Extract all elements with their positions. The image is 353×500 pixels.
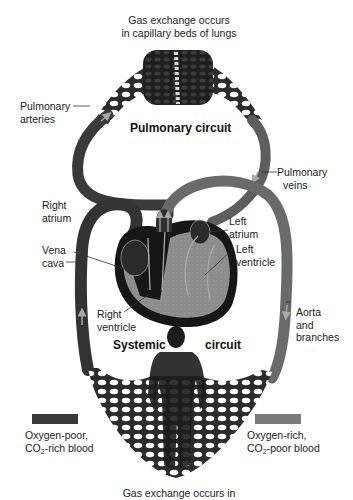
label-aorta-and-branches: Aorta and branches (296, 306, 339, 344)
label-pulmonary-veins: Pulmonary veins (277, 166, 327, 191)
legend-swatch-oxygen-poor (32, 414, 78, 424)
systemic-circuit-title-left: Systemic (113, 338, 166, 352)
tissue-gas-exchange-caption: Gas exchange occurs in (104, 487, 254, 500)
label-right-ventricle: Right ventricle (97, 308, 136, 333)
lung-capillary-bed (95, 50, 262, 124)
legend-label-oxygen-poor: Oxygen-poor, CO2-rich blood (25, 429, 94, 454)
systemic-circuit-title-right: circuit (205, 338, 241, 352)
pulmonary-circuit-title: Pulmonary circuit (130, 121, 231, 135)
pulmonary-vein-vessel (212, 120, 266, 222)
right-atrium-shape (121, 240, 149, 276)
lung-gas-exchange-caption: Gas exchange occurs in capillary beds of… (104, 14, 254, 39)
label-pulmonary-arteries: Pulmonary arteries (20, 100, 70, 125)
label-right-atrium: Right atrium (42, 199, 71, 224)
label-vena-cava: Vena cava (42, 244, 66, 269)
legend-swatch-oxygen-rich (255, 414, 301, 424)
legend-label-oxygen-rich: Oxygen-rich, CO2-poor blood (247, 429, 320, 454)
left-atrium-shape (190, 220, 210, 244)
label-left-ventricle: Left ventricle (236, 243, 275, 268)
label-left-atrium: Left atrium (229, 215, 258, 240)
